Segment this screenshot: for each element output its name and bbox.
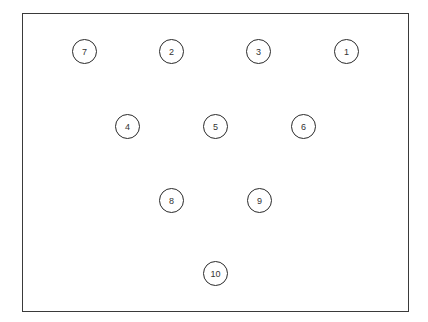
node-7: 7 (72, 39, 97, 64)
node-2: 2 (159, 39, 184, 64)
node-9: 9 (247, 188, 272, 213)
node-1: 1 (334, 39, 359, 64)
node-8: 8 (159, 188, 184, 213)
node-3: 3 (246, 39, 271, 64)
node-5: 5 (203, 114, 228, 139)
node-4: 4 (115, 114, 140, 139)
node-6: 6 (291, 114, 316, 139)
node-10: 10 (203, 261, 228, 286)
